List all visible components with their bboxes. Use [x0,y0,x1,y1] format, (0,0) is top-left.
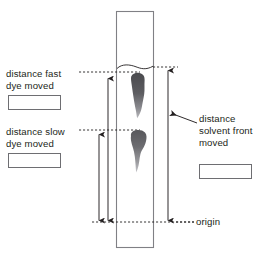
solvent-front-answer-box[interactable] [199,164,252,179]
distance-fast-dye-label-line2: dye moved [6,80,61,92]
solvent-label-pointer [173,114,197,123]
slow-dye-answer-box[interactable] [8,153,61,168]
chromatography-paper-strip [117,12,154,248]
origin-label: origin [196,216,220,228]
chromatography-diagram: distance fast dye moved distance slow dy… [0,0,262,256]
distance-fast-dye-label-line1: distance fast [6,68,61,80]
distance-solvent-front-label: distance solvent front moved [199,113,259,148]
distance-slow-dye-label: distance slow dye moved [6,126,65,149]
distance-slow-dye-label-line2: dye moved [6,138,65,150]
distance-fast-dye-label: distance fast dye moved [6,68,61,91]
distance-slow-dye-label-line1: distance slow [6,126,65,138]
fast-dye-answer-box[interactable] [8,95,61,110]
